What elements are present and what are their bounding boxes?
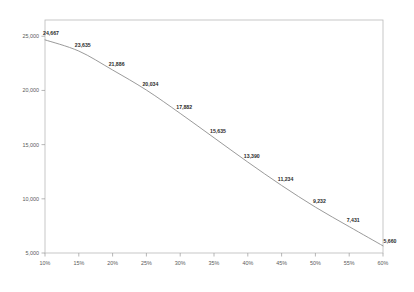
x-axis-tick-label: 25% [141, 260, 152, 266]
data-point-label: 13,390 [244, 153, 260, 159]
x-axis-tick-label: 45% [276, 260, 287, 266]
y-axis-tick-label: 10,000 [23, 196, 40, 202]
line-chart: 5,00010,00015,00020,00025,000 10%15%20%2… [0, 0, 414, 292]
x-axis-tick-label: 35% [209, 260, 220, 266]
data-point-label: 20,034 [142, 81, 158, 87]
y-axis-tick-label: 20,000 [23, 87, 40, 93]
data-point-label: 21,886 [109, 61, 125, 67]
y-axis-tick-label: 25,000 [23, 33, 40, 39]
data-point-label: 7,431 [347, 217, 360, 223]
y-axis-tick-label: 15,000 [23, 142, 40, 148]
y-axis-tick-label: 5,000 [26, 250, 40, 256]
data-point-label: 23,635 [75, 42, 91, 48]
x-axis-tick-label: 15% [73, 260, 84, 266]
x-axis-tick-label: 50% [310, 260, 321, 266]
x-axis-tick-label: 40% [242, 260, 253, 266]
chart-page: 5,00010,00015,00020,00025,000 10%15%20%2… [0, 0, 414, 292]
x-axis-tick-label: 20% [107, 260, 118, 266]
data-point-label: 15,635 [210, 128, 226, 134]
data-point-label: 17,882 [176, 104, 192, 110]
x-axis-tick-label: 10% [40, 260, 51, 266]
data-point-label: 9,232 [313, 198, 326, 204]
x-axis-tick-label: 55% [344, 260, 355, 266]
x-axis-tick-label: 60% [378, 260, 389, 266]
data-point-label: 24,667 [43, 30, 59, 36]
data-point-label: 5,660 [384, 238, 397, 244]
x-axis-tick-label: 30% [175, 260, 186, 266]
data-point-label: 11,234 [278, 176, 294, 182]
plot-background [0, 0, 414, 292]
